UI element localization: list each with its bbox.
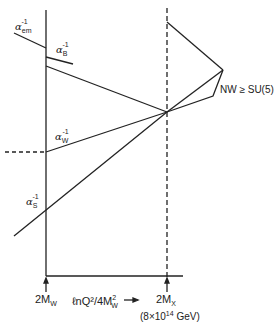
diagram-canvas: [0, 0, 276, 328]
alpha-b-line: [46, 66, 167, 112]
alpha-em-line: [14, 33, 46, 48]
label-alpha-s: αS-1: [26, 195, 44, 209]
x-tick-2mx: 2MX: [156, 294, 176, 307]
label-alpha-b: αB-1: [56, 43, 74, 57]
x-tick-2mw: 2MW: [35, 294, 57, 307]
axis-arrowhead: [133, 298, 138, 302]
alpha-b-short-line: [46, 57, 73, 64]
label-alpha-em: αem-1: [15, 20, 38, 34]
x-tick-2mx-value: (8×1014 GeV): [140, 310, 200, 322]
left-tick-arrowhead: [44, 278, 48, 283]
right-tick-arrowhead: [165, 278, 169, 283]
label-alpha-w: αW-1: [55, 130, 75, 144]
label-nw-su5: NW ≥ SU(5): [220, 85, 274, 95]
x-axis-label: ℓnQ²/4M2W: [72, 294, 123, 309]
nw-top-line: [167, 22, 223, 70]
alpha-s-line: [14, 112, 167, 236]
